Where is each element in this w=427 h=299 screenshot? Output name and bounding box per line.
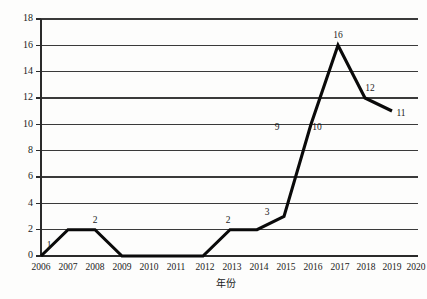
- y-label-14: 14: [23, 65, 33, 76]
- chart-svg: 18 16 14 12 10 8 6 4 2 0 1 2 2 3 9 10 16…: [0, 0, 427, 299]
- point-label-2019: 11: [396, 108, 405, 118]
- x-label-2020: 2020: [407, 262, 426, 272]
- x-label-2018: 2018: [357, 262, 376, 272]
- x-axis-labels: 2006 2007 2008 2009 2010 2011 2012 2013 …: [32, 262, 426, 272]
- x-label-2009: 2009: [113, 262, 132, 272]
- x-label-2008: 2008: [86, 262, 105, 272]
- point-label-2016: 10: [312, 122, 322, 132]
- y-axis-labels: 18 16 14 12 10 8 6 4 2 0: [23, 12, 33, 260]
- x-label-2017: 2017: [331, 262, 350, 272]
- point-label-2015-3: 3: [265, 207, 270, 217]
- y-label-10: 10: [23, 118, 33, 129]
- y-label-8: 8: [28, 144, 33, 155]
- y-label-16: 16: [23, 39, 33, 50]
- point-label-2013: 2: [226, 215, 231, 225]
- x-axis-title: 年份: [216, 277, 236, 289]
- y-label-12: 12: [23, 91, 33, 102]
- x-label-2010: 2010: [140, 262, 159, 272]
- point-label-2015-9: 9: [275, 122, 280, 132]
- line-chart: 18 16 14 12 10 8 6 4 2 0 1 2 2 3 9 10 16…: [0, 0, 427, 299]
- x-label-2011: 2011: [167, 262, 186, 272]
- x-label-2013: 2013: [223, 262, 242, 272]
- y-label-4: 4: [28, 197, 33, 208]
- y-label-6: 6: [28, 170, 33, 181]
- y-label-0: 0: [28, 249, 33, 260]
- x-label-2007: 2007: [59, 262, 78, 272]
- y-label-18: 18: [23, 12, 33, 23]
- point-label-2006: 1: [47, 240, 52, 250]
- point-label-2018: 12: [365, 83, 375, 93]
- y-label-2: 2: [28, 223, 33, 234]
- x-label-2016: 2016: [304, 262, 323, 272]
- x-label-2012: 2012: [196, 262, 215, 272]
- point-label-2008: 2: [93, 215, 98, 225]
- x-label-2019: 2019: [383, 262, 402, 272]
- y-tick-marks: [36, 19, 41, 256]
- x-label-2015: 2015: [277, 262, 296, 272]
- point-label-2017: 16: [333, 30, 343, 40]
- x-label-2014: 2014: [250, 262, 269, 272]
- x-label-2006: 2006: [32, 262, 51, 272]
